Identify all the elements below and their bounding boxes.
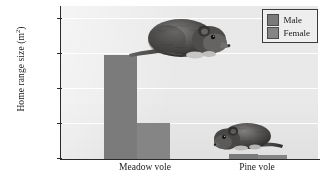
meadow-vole-photo [123, 14, 231, 64]
y-axis-title-end: ) [16, 26, 26, 29]
legend-swatch-female-icon [267, 27, 279, 39]
gridline-600 [61, 53, 318, 54]
y-axis-tick-400 [57, 88, 62, 89]
y-axis-tick-600 [57, 53, 62, 54]
legend-entry-male: Male [267, 13, 311, 26]
x-axis-label-pine-vole: Pine vole [239, 162, 275, 172]
chart-legend: Male Female [262, 9, 319, 43]
x-axis-label-meadow-vole: Meadow vole [119, 162, 171, 172]
legend-swatch-male-icon [267, 14, 279, 26]
y-axis-title-superscript: 2 [14, 30, 21, 33]
legend-label-female: Female [284, 28, 311, 38]
y-axis-title-main: Home range size (m [16, 33, 26, 112]
gridline-400 [61, 88, 318, 89]
legend-entry-female: Female [267, 26, 311, 39]
gridline-200 [61, 123, 318, 124]
bar-meadow-vole-female [137, 123, 170, 159]
y-axis-tick-200 [57, 123, 62, 124]
x-axis-line [60, 159, 320, 160]
y-axis-tick-800 [57, 18, 62, 19]
bar-meadow-vole-male [104, 55, 137, 159]
y-axis-title: Home range size (m2) [16, 0, 26, 144]
bar-chart-figure: Home range size (m2) 800 600 400 200 0 [0, 0, 324, 183]
legend-label-male: Male [284, 15, 303, 25]
